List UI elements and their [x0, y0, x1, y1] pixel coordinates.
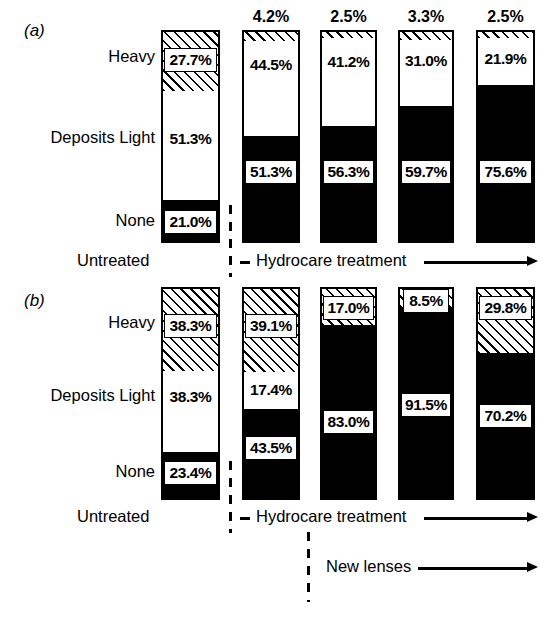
panel-a-top-annotation-1: 4.2% — [242, 8, 300, 26]
panel-a-top-annotation-2: 2.5% — [320, 8, 377, 26]
new-lenses-label: New lenses — [326, 557, 411, 576]
panel-b-hydrocare-label: Hydrocare treatment — [256, 507, 406, 526]
panel-b-untreated-label: Untreated — [77, 507, 149, 526]
panel-b-value-1-none: 43.5% — [245, 436, 297, 460]
panel-b-label-heavy: Heavy — [30, 313, 155, 332]
panel-b-label-light: Deposits Light — [10, 386, 155, 405]
panel-b-value-1-light: 17.4% — [245, 379, 297, 401]
segment-heavy — [400, 32, 452, 40]
panel-b-value-3-heavy: 8.5% — [403, 289, 449, 313]
panel-a-group-divider — [229, 205, 232, 277]
panel-b-value-untreated-none: 23.4% — [164, 461, 217, 485]
panel-b-value-2-none: 83.0% — [323, 410, 374, 434]
panel-b-axis-arrow-head — [527, 512, 538, 522]
panel-a-value-1-light: 44.5% — [245, 54, 297, 76]
panel-a-axis-arrow-head — [527, 256, 538, 266]
panel-a-axis-arrow-line — [424, 261, 528, 264]
panel-a-hydrocare-label: Hydrocare treatment — [256, 251, 406, 270]
panel-b-value-untreated-heavy: 38.3% — [164, 314, 217, 338]
panel-a-top-annotation-3: 3.3% — [398, 8, 454, 26]
panel-b-label-none: None — [30, 462, 155, 481]
panel-b-value-4-none: 70.2% — [479, 404, 532, 428]
panel-a-value-untreated-heavy: 27.7% — [164, 48, 217, 72]
panel-a-value-4-none: 75.6% — [479, 160, 532, 184]
panel-a-value-2-none: 56.3% — [323, 160, 374, 184]
panel-a-value-untreated-light: 51.3% — [164, 128, 217, 150]
panel-a-letter: (a) — [24, 21, 45, 41]
panel-a-label-light: Deposits Light — [10, 128, 155, 147]
panel-b-axis-arrow-line — [424, 517, 528, 520]
panel-a-top-annotation-4: 2.5% — [476, 8, 535, 26]
panel-a-axis-dash — [240, 261, 250, 264]
segment-light — [163, 371, 218, 453]
panel-a-value-1-none: 51.3% — [245, 160, 297, 184]
panel-a-value-3-light: 31.0% — [401, 50, 451, 72]
panel-b-letter: (b) — [24, 291, 45, 311]
panel-b-group-divider — [229, 461, 232, 533]
panel-a-value-untreated-none: 21.0% — [164, 210, 217, 234]
panel-b-axis-dash — [240, 517, 250, 520]
segment-heavy — [244, 32, 298, 41]
panel-b-value-4-heavy: 29.8% — [479, 296, 532, 320]
panel-a-value-3-none: 59.7% — [401, 160, 451, 184]
deposits-stacked-bar-figure: (a) Heavy Deposits Light None Untreated … — [0, 0, 552, 618]
new-lenses-arrow-head — [527, 562, 538, 572]
panel-a-label-heavy: Heavy — [30, 47, 155, 66]
new-lenses-divider — [307, 532, 310, 602]
panel-b-value-3-none: 91.5% — [401, 393, 451, 417]
panel-a-untreated-label: Untreated — [77, 251, 149, 270]
panel-a-label-none: None — [30, 211, 155, 230]
panel-b-value-2-heavy: 17.0% — [323, 296, 374, 320]
new-lenses-arrow-line — [418, 567, 528, 570]
panel-b-value-1-heavy: 39.1% — [245, 314, 297, 338]
panel-a-value-4-light: 21.9% — [479, 48, 532, 70]
segment-none — [244, 136, 298, 241]
panel-b-value-untreated-light: 38.3% — [164, 386, 217, 408]
panel-a-value-2-light: 41.2% — [323, 51, 374, 73]
